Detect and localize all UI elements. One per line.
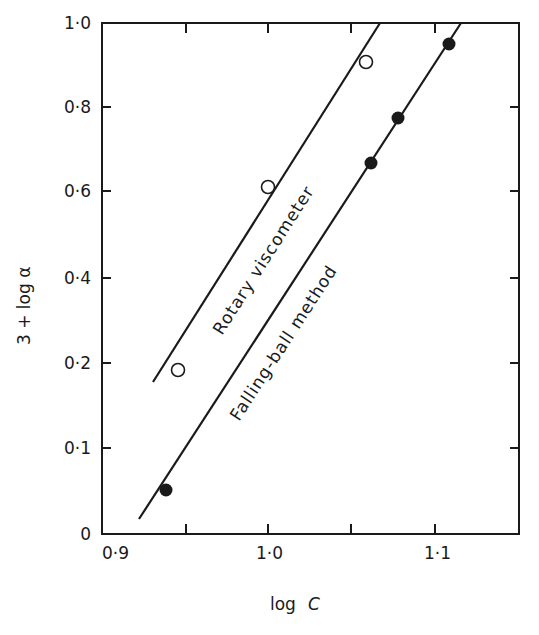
y-tick-label: 0	[80, 524, 91, 544]
chart: 1·0 0·8 0·6 0·4 0·2 0·1 0 0·9 1·0 1·1 lo…	[0, 0, 539, 635]
x-axis-title: logC	[270, 594, 320, 614]
rotary-viscometer-points	[172, 56, 373, 377]
data-point-open	[360, 56, 373, 69]
y-tick-label: 0·1	[64, 438, 91, 458]
falling-ball-points	[160, 38, 456, 497]
data-point-filled	[392, 112, 405, 125]
data-point-open	[262, 181, 275, 194]
y-tick-label: 0·4	[64, 268, 91, 288]
y-tick-label: 0·6	[64, 181, 91, 201]
x-tick-label: 0·9	[102, 543, 129, 563]
x-tick-label: 1·0	[256, 543, 283, 563]
x-axis-labels: 0·9 1·0 1·1	[102, 543, 451, 563]
y-tick-label: 0·2	[64, 353, 91, 373]
y-axis-title: 3 + log α	[14, 267, 34, 345]
y-tick-label: 0·8	[64, 97, 91, 117]
rotary-viscometer-fit-line	[153, 23, 380, 382]
data-point-open	[172, 364, 185, 377]
y-tick-label: 1·0	[64, 13, 91, 33]
data-point-filled	[443, 38, 456, 51]
data-point-filled	[365, 157, 378, 170]
y-axis-ticks	[102, 107, 519, 448]
x-tick-label: 1·1	[424, 543, 451, 563]
x-axis-ticks	[186, 23, 435, 534]
data-point-filled	[160, 484, 173, 497]
plot-frame	[102, 23, 519, 534]
y-axis-labels: 1·0 0·8 0·6 0·4 0·2 0·1 0	[64, 13, 91, 544]
falling-ball-fit-line	[139, 23, 461, 519]
